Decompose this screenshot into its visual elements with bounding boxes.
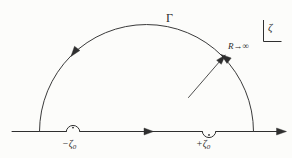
axis-label-zeta: ζ [268,22,272,33]
pole-label-positive-base: +ζ [196,138,207,149]
radius-leader-line [189,61,221,98]
pole-label-positive: +ζ0 [196,139,210,151]
pole-label-positive-subscript: 0 [207,143,211,151]
contour-integration-figure: Γ ζ R→∞ −ζ0 +ζ0 [0,0,292,158]
pole-marker-negative [72,127,74,129]
contour-label-gamma: Γ [166,12,173,24]
pole-label-negative-subscript: 0 [73,143,77,151]
contour-diagram-canvas [0,0,292,158]
axis-direction-arrow-end [277,128,287,135]
contour-arc-gamma [40,25,254,132]
axis-direction-arrow-middle [144,128,154,135]
pole-label-negative-base: −ζ [62,138,73,149]
pole-marker-positive [208,134,210,136]
radius-label: R→∞ [228,42,249,51]
pole-label-negative: −ζ0 [62,139,76,151]
